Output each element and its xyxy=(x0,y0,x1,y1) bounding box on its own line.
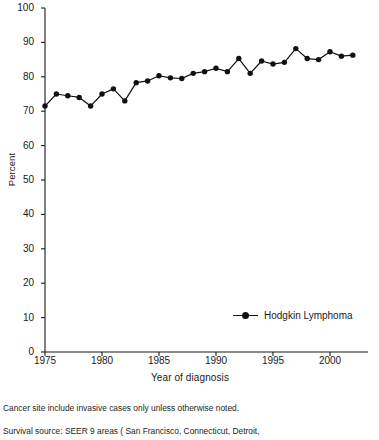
data-point xyxy=(339,53,344,58)
data-point xyxy=(225,69,230,74)
y-tick-label: 80 xyxy=(4,72,34,82)
data-point xyxy=(213,66,218,71)
data-point xyxy=(305,56,310,61)
data-point xyxy=(282,60,287,65)
legend-label: Hodgkin Lymphoma xyxy=(258,310,353,321)
data-point xyxy=(327,49,332,54)
y-tick-label: 70 xyxy=(4,106,34,116)
y-tick-label: 90 xyxy=(4,37,34,47)
x-tick-label: 1985 xyxy=(137,356,181,366)
data-point xyxy=(134,80,139,85)
data-series-markers xyxy=(42,46,355,109)
legend-marker-icon xyxy=(233,310,258,321)
data-point xyxy=(293,46,298,51)
legend-dot xyxy=(242,312,249,319)
x-tick-label: 2000 xyxy=(308,356,352,366)
y-axis-ticks xyxy=(41,8,45,352)
data-point xyxy=(145,78,150,83)
data-point xyxy=(248,71,253,76)
data-point xyxy=(202,69,207,74)
data-point xyxy=(65,93,70,98)
data-point xyxy=(156,73,161,78)
y-axis-title: Percent xyxy=(6,138,17,202)
chart-legend: Hodgkin Lymphoma xyxy=(233,310,353,321)
y-tick-label: 30 xyxy=(4,244,34,254)
x-tick-label: 1990 xyxy=(194,356,238,366)
x-tick-label: 1995 xyxy=(251,356,295,366)
data-point xyxy=(99,91,104,96)
data-point xyxy=(111,86,116,91)
data-point xyxy=(168,75,173,80)
data-point xyxy=(350,52,355,57)
data-point xyxy=(316,57,321,62)
y-tick-label: 40 xyxy=(4,209,34,219)
data-point xyxy=(42,103,47,108)
data-point xyxy=(179,76,184,81)
data-point xyxy=(259,58,264,63)
data-point xyxy=(88,103,93,108)
data-point xyxy=(54,91,59,96)
data-point xyxy=(122,98,127,103)
data-point xyxy=(77,95,82,100)
x-tick-label: 1980 xyxy=(80,356,124,366)
y-tick-label: 100 xyxy=(4,3,34,13)
footnote-line-2: Survival source: SEER 9 areas ( San Fran… xyxy=(3,426,377,437)
x-tick-label: 1975 xyxy=(23,356,67,366)
data-point xyxy=(236,56,241,61)
chart-footnote: Cancer site include invasive cases only … xyxy=(3,392,377,440)
y-tick-label: 10 xyxy=(4,313,34,323)
data-point xyxy=(191,71,196,76)
y-tick-label: 20 xyxy=(4,278,34,288)
x-axis-title: Year of diagnosis xyxy=(45,372,335,383)
data-point xyxy=(270,61,275,66)
footnote-line-1: Cancer site include invasive cases only … xyxy=(3,403,377,414)
